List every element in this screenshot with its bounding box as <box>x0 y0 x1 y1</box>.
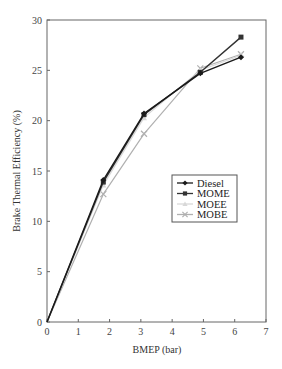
y-tick-label: 25 <box>32 65 42 76</box>
x-tick-label: 1 <box>76 326 81 337</box>
x-tick-label: 5 <box>201 326 206 337</box>
square-marker <box>183 191 187 195</box>
legend-label: MOME <box>197 188 230 199</box>
plot-border <box>47 20 266 322</box>
plot-area <box>47 20 266 322</box>
square-marker <box>238 35 243 40</box>
x-tick-label: 4 <box>170 326 175 337</box>
y-tick-label: 10 <box>32 216 42 227</box>
x-marker <box>141 131 147 137</box>
y-tick-label: 0 <box>37 317 42 328</box>
x-marker <box>100 191 106 197</box>
x-tick-label: 0 <box>45 326 50 337</box>
legend-label: MOEE <box>197 199 227 210</box>
y-tick-label: 20 <box>32 115 42 126</box>
y-tick-label: 5 <box>37 266 42 277</box>
x-tick-label: 2 <box>107 326 112 337</box>
chart: 01234567 051015202530 BMEP (bar) Brake T… <box>0 0 282 369</box>
y-axis-title: Brake Thermal Efficiency (%) <box>11 110 23 232</box>
y-tick-label: 15 <box>32 166 42 177</box>
x-axis-title: BMEP (bar) <box>133 344 182 356</box>
x-tick-label: 6 <box>232 326 237 337</box>
x-tick-label: 7 <box>264 326 269 337</box>
x-tick-label: 3 <box>138 326 143 337</box>
legend: DieselMOMEMOEEMOBE <box>172 175 237 222</box>
legend-label: MOBE <box>197 209 227 220</box>
legend-label: Diesel <box>197 178 224 189</box>
y-tick-label: 30 <box>32 15 42 26</box>
